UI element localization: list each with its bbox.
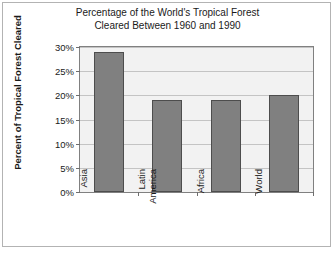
chart-figure: Percentage of the World's Tropical Fores…	[2, 2, 331, 247]
x-tick-mark	[313, 192, 314, 196]
y-axis-title: Percent of Tropical Forest Cleared	[12, 13, 23, 173]
y-tick-label: 20%	[55, 90, 74, 101]
y-tick-label: 25%	[55, 66, 74, 77]
bar[interactable]	[94, 52, 124, 192]
x-tick-label: Latin America	[137, 169, 158, 229]
x-tick-label: Asia	[79, 169, 90, 229]
y-tick-label: 5%	[60, 162, 74, 173]
x-tick-label: Africa	[196, 169, 207, 229]
y-tick-label: 30%	[55, 42, 74, 53]
y-tick-label: 10%	[55, 138, 74, 149]
bar[interactable]	[211, 100, 241, 192]
plot-area: 0%5%10%15%20%25%30% AsiaLatin AmericaAfr…	[79, 46, 314, 193]
chart-title: Percentage of the World's Tropical Fores…	[3, 7, 332, 32]
x-tick-label: World	[254, 169, 265, 229]
bar[interactable]	[269, 95, 299, 192]
y-tick-label: 15%	[55, 114, 74, 125]
y-tick-label: 0%	[60, 187, 74, 198]
